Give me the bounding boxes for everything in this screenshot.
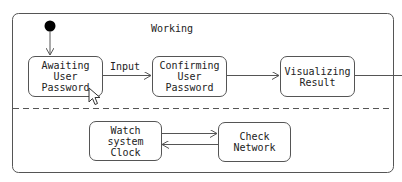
composite-state-title: Working bbox=[151, 23, 193, 34]
state-visualizing-result[interactable]: Visualizing Result bbox=[280, 56, 355, 97]
state-check-network[interactable]: Check Network bbox=[218, 122, 291, 162]
transition-label-input: Input bbox=[110, 61, 140, 72]
mouse-pointer-icon bbox=[88, 87, 102, 107]
state-confirming-user-password[interactable]: Confirming User Password bbox=[152, 56, 227, 97]
state-watch-system-clock[interactable]: Watch system Clock bbox=[89, 121, 162, 161]
initial-state-dot[interactable] bbox=[45, 21, 56, 32]
